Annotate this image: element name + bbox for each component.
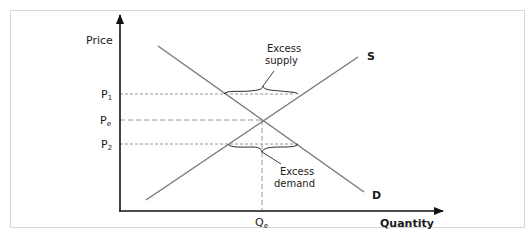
demand-curve xyxy=(158,46,364,192)
p1-label: P1 xyxy=(101,88,112,102)
qe-label: Qe xyxy=(255,216,268,230)
guide-lines xyxy=(120,94,298,211)
excess-supply-pointer xyxy=(263,71,274,86)
excess-supply-label: Excess supply xyxy=(265,43,304,66)
demand-label: D xyxy=(372,189,381,202)
pe-label: Pe xyxy=(100,114,111,128)
supply-curve xyxy=(146,57,358,200)
y-axis-label: Price xyxy=(86,34,113,47)
x-axis-label: Quantity xyxy=(380,217,434,230)
excess-demand-brace xyxy=(228,144,298,152)
p2-label: P2 xyxy=(101,138,112,152)
excess-supply-brace xyxy=(224,86,298,94)
excess-demand-label: Excess demand xyxy=(274,166,317,189)
supply-label: S xyxy=(367,50,375,63)
supply-demand-diagram: Price Quantity P1 Pe P2 Qe S D Excess su… xyxy=(0,0,532,244)
excess-demand-pointer xyxy=(262,152,281,164)
